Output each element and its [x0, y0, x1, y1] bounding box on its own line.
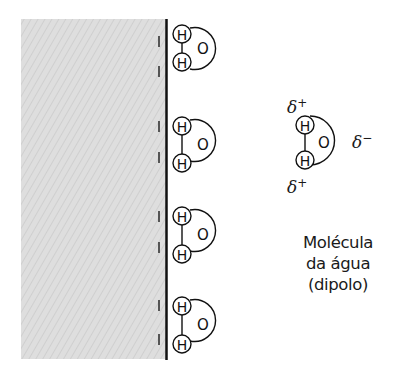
caption-line-2: da água: [292, 253, 384, 274]
svg-text:H: H: [300, 118, 311, 134]
caption-line-1: Molécula: [292, 232, 384, 253]
surface-water-molecule: H H O: [173, 25, 216, 71]
svg-text:O: O: [197, 316, 209, 334]
surface-water-molecule: H H O: [173, 207, 216, 263]
surface-water-molecule: H H O: [173, 117, 216, 172]
svg-text:H: H: [177, 55, 188, 71]
water-adhesion-diagram: H H O H H O H H O H H O H H O: [0, 0, 396, 380]
surface-fill: [21, 19, 166, 359]
delta-plus-top-label: δ+: [287, 96, 307, 117]
dipole-water-molecule: H H O: [296, 116, 335, 169]
delta-plus-bottom-label: δ+: [287, 176, 307, 197]
svg-text:H: H: [177, 299, 188, 315]
caption-line-3: (dipolo): [292, 274, 384, 295]
svg-text:H: H: [177, 209, 188, 225]
svg-text:H: H: [177, 156, 188, 172]
svg-text:H: H: [177, 27, 188, 43]
delta-minus-label: δ−: [352, 131, 372, 152]
svg-text:H: H: [177, 337, 188, 353]
svg-text:O: O: [197, 136, 209, 154]
svg-text:O: O: [197, 40, 209, 58]
svg-text:O: O: [318, 134, 330, 152]
surface-water-molecule: H H O: [173, 297, 216, 353]
svg-text:H: H: [177, 247, 188, 263]
dipole-caption: Molécula da água (dipolo): [292, 232, 384, 295]
svg-text:H: H: [300, 153, 311, 169]
svg-text:H: H: [177, 119, 188, 135]
solid-surface: [21, 19, 167, 360]
svg-text:O: O: [197, 226, 209, 244]
